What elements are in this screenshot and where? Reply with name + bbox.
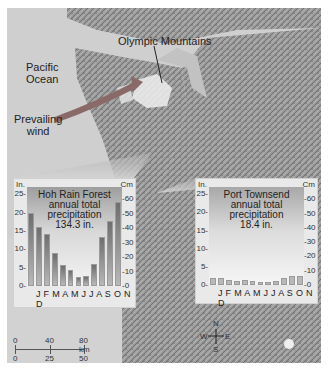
bar-M <box>226 280 232 285</box>
month-labels: J F M A M J J A S O N D <box>36 289 135 309</box>
scale-mi-25: 25 <box>45 354 54 363</box>
left-tick: 5- <box>201 263 208 271</box>
city-marker <box>284 339 294 349</box>
bar-O <box>281 278 287 285</box>
ocean-label-line2: Ocean <box>26 73 58 85</box>
left-tick: 25- <box>14 190 26 198</box>
compass-n: N <box>213 319 219 328</box>
scale-km-80: 80 km <box>79 336 90 354</box>
bar-J <box>76 277 82 286</box>
compass-w: W <box>200 332 208 341</box>
compass-s: S <box>213 345 218 354</box>
scale-km-40: 40 <box>45 336 54 345</box>
plot-area: Hoh Rain Forest annual total precipitati… <box>27 187 122 286</box>
left-unit-label: In. <box>16 180 25 189</box>
olympic-mountains-label: Olympic Mountains <box>118 35 212 47</box>
bar-M <box>242 280 248 285</box>
right-tick: -40 <box>304 224 316 232</box>
left-tick: 25- <box>196 190 208 198</box>
bar-S <box>91 264 97 286</box>
left-tick: 15- <box>14 227 26 235</box>
scale-mi-0: 0 <box>13 354 17 363</box>
bar-J <box>258 282 264 285</box>
bar-F <box>218 278 224 285</box>
bar-J <box>28 213 34 286</box>
bar-O <box>99 237 105 286</box>
bar-A <box>52 253 58 286</box>
bar-series <box>209 187 304 285</box>
left-unit-label: In. <box>198 180 207 189</box>
bar-M <box>44 234 50 286</box>
left-tick: 20- <box>196 208 208 216</box>
right-tick: -30 <box>304 238 316 246</box>
left-tick: 10- <box>196 245 208 253</box>
bar-J <box>68 270 74 286</box>
left-tick: 0- <box>19 282 26 290</box>
wind-label-line2: wind <box>14 125 62 137</box>
prevailing-wind-label: Prevailing wind <box>14 113 62 137</box>
bar-N <box>107 221 113 286</box>
right-tick: -40 <box>122 224 134 232</box>
left-tick: 10- <box>14 245 26 253</box>
ocean-label-line1: Pacific <box>26 61 58 73</box>
wind-label-line1: Prevailing <box>14 113 62 125</box>
right-tick: -50 <box>304 210 316 218</box>
right-unit-label: Cm <box>303 180 315 189</box>
scale-km-0: 0 <box>13 336 17 345</box>
compass-e: E <box>225 332 230 341</box>
left-tick: 15- <box>196 227 208 235</box>
right-tick: -20 <box>122 253 134 261</box>
left-tick: 5- <box>19 264 26 272</box>
month-labels: J F M A M J J A S O N D <box>218 288 317 308</box>
bar-A <box>83 276 89 286</box>
bar-J <box>250 281 256 285</box>
bar-A <box>265 282 271 285</box>
right-unit-label: Cm <box>121 180 133 189</box>
bar-J <box>210 278 216 285</box>
right-tick: -10 <box>122 268 134 276</box>
bar-A <box>234 281 240 285</box>
right-tick: -30 <box>122 239 134 247</box>
right-tick: -60 <box>304 195 316 203</box>
hoh-rain-forest-chart: In. Cm Hoh Rain Forest annual total prec… <box>13 178 136 308</box>
left-tick: 20- <box>14 209 26 217</box>
bar-D <box>297 276 303 285</box>
scale-mi-50: 50 mi <box>79 354 88 363</box>
bar-D <box>115 202 121 286</box>
left-tick: 0- <box>201 281 208 289</box>
bar-S <box>273 281 279 285</box>
bar-N <box>289 276 295 285</box>
bar-series <box>27 187 122 286</box>
bar-F <box>36 227 42 286</box>
bar-M <box>60 265 66 286</box>
right-tick: -60 <box>122 195 134 203</box>
plot-area: Port Townsend annual total precipitation… <box>209 187 304 285</box>
pacific-ocean-label: Pacific Ocean <box>26 61 58 85</box>
port-townsend-chart: In. Cm Port Townsend annual total precip… <box>195 178 318 304</box>
right-tick: -20 <box>304 252 316 260</box>
right-tick: -10 <box>304 267 316 275</box>
right-tick: -50 <box>122 210 134 218</box>
